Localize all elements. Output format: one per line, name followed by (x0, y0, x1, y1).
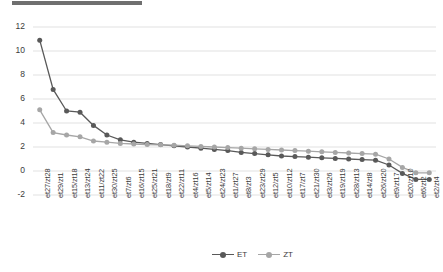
data-point (64, 133, 69, 138)
data-point (386, 157, 391, 162)
data-point (373, 152, 378, 157)
data-point (292, 154, 297, 159)
data-point (346, 157, 351, 162)
data-point (198, 144, 203, 149)
data-point (118, 141, 123, 146)
data-point (78, 134, 83, 139)
data-point (91, 139, 96, 144)
plot-area (0, 0, 443, 272)
legend-swatch-icon (258, 250, 280, 259)
data-point (319, 155, 324, 160)
data-point (266, 147, 271, 152)
data-point (252, 146, 257, 151)
data-point (400, 165, 405, 170)
data-point (104, 140, 109, 145)
data-point (292, 148, 297, 153)
data-point (386, 163, 391, 168)
data-point (225, 145, 230, 150)
data-point (279, 154, 284, 159)
data-point (333, 156, 338, 161)
data-point (333, 150, 338, 155)
legend-label: ZT (283, 250, 293, 259)
data-point (51, 130, 56, 135)
legend-item-zt[interactable]: ZT (258, 250, 293, 259)
legend-item-et[interactable]: ET (212, 250, 247, 259)
data-point (279, 148, 284, 153)
data-point (252, 151, 257, 156)
data-point (319, 149, 324, 154)
data-point (360, 157, 365, 162)
data-point (37, 107, 42, 112)
data-point (400, 171, 405, 176)
legend-swatch-icon (212, 250, 234, 259)
data-point (360, 151, 365, 156)
data-point (346, 151, 351, 156)
data-point (145, 142, 150, 147)
data-point (427, 170, 432, 175)
data-point (104, 133, 109, 138)
data-point (373, 158, 378, 163)
data-point (306, 155, 311, 160)
chart-legend: ETZT (212, 250, 293, 259)
legend-label: ET (237, 250, 247, 259)
data-point (37, 38, 42, 43)
data-point (64, 109, 69, 114)
data-point (78, 110, 83, 115)
data-point (239, 146, 244, 151)
data-point (172, 143, 177, 148)
data-series-layer (37, 38, 432, 182)
data-point (266, 152, 271, 157)
data-point (306, 149, 311, 154)
data-point (91, 123, 96, 128)
data-point (158, 142, 163, 147)
series-line-zt (40, 110, 430, 173)
data-point (131, 142, 136, 147)
gridlines (33, 27, 436, 195)
data-point (185, 143, 190, 148)
series-line-et (40, 40, 430, 179)
data-point (413, 177, 418, 182)
data-point (212, 145, 217, 150)
data-point (427, 177, 432, 182)
data-point (413, 170, 418, 175)
data-point (51, 87, 56, 92)
line-chart: 121086420-2 et27/zt28et29/zt1et15/zt18et… (0, 0, 443, 272)
